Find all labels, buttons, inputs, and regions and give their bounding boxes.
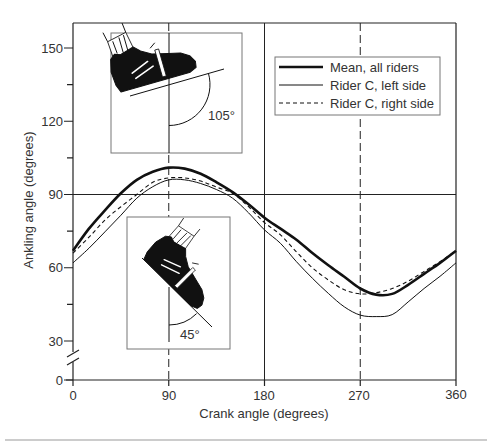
x-tick-label: 90 <box>162 388 176 403</box>
y-tick-label: 90 <box>49 187 63 202</box>
y-axis: 0 30 60 90 120 150 Ankling angle (degree… <box>21 23 79 388</box>
x-axis-title: Crank angle (degrees) <box>199 406 328 421</box>
x-tick-label: 0 <box>69 388 76 403</box>
y-tick-label: 120 <box>41 114 63 129</box>
inset-foot-top: 105° <box>99 7 242 153</box>
legend-label: Rider C, left side <box>330 78 426 93</box>
x-tick-label: 270 <box>348 388 370 403</box>
x-tick-label: 180 <box>253 388 275 403</box>
legend-label: Rider C, right side <box>330 96 434 111</box>
inset-foot-bottom: 45° <box>127 213 239 349</box>
x-tick-label: 360 <box>445 387 467 402</box>
x-axis: 0 90 180 270 360 Crank angle (degrees) <box>66 380 467 421</box>
y-tick-label: 60 <box>49 260 63 275</box>
legend: Mean, all riders Rider C, left side Ride… <box>275 57 440 115</box>
angle-label: 105° <box>208 108 235 123</box>
y-tick-label: 150 <box>41 41 63 56</box>
x-ticks <box>169 380 456 386</box>
y-tick-label: 0 <box>56 373 63 388</box>
y-major-ticks <box>64 48 73 380</box>
angle-label: 45° <box>180 327 200 342</box>
y-axis-title: Ankling angle (degrees) <box>21 131 36 268</box>
ankling-chart: 0 30 60 90 120 150 Ankling angle (degree… <box>0 0 489 443</box>
y-tick-label: 30 <box>49 334 63 349</box>
legend-label: Mean, all riders <box>330 60 419 75</box>
